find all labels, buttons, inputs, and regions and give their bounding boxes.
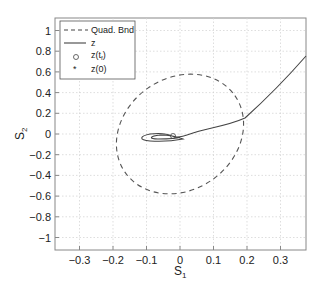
legend-z: z: [91, 38, 96, 48]
asterisk-marker-icon: *: [73, 64, 77, 74]
svg-text:0: 0: [45, 128, 51, 140]
chart: −0.3−0.2−0.100.10.20.310.80.60.40.20−0.2…: [0, 0, 321, 288]
svg-text:0.4: 0.4: [36, 87, 51, 99]
svg-text:−0.1: −0.1: [136, 254, 158, 266]
svg-text:0.1: 0.1: [206, 254, 221, 266]
legend: Quad. Bnd z z(tf) * z(0): [60, 21, 135, 79]
svg-text:0.2: 0.2: [36, 107, 51, 119]
svg-text:1: 1: [45, 25, 51, 37]
legend-z-tf: z(tf): [91, 50, 106, 61]
legend-z0: z(0): [91, 64, 107, 74]
svg-text:0.8: 0.8: [36, 45, 51, 57]
svg-text:−0.8: −0.8: [29, 211, 51, 223]
svg-text:−0.3: −0.3: [69, 254, 91, 266]
svg-text:0.3: 0.3: [273, 254, 288, 266]
x-axis-label: S1: [174, 264, 187, 280]
svg-text:−0.6: −0.6: [29, 190, 51, 202]
svg-text:−0.2: −0.2: [29, 149, 51, 161]
svg-text:0.6: 0.6: [36, 66, 51, 78]
svg-text:−0.4: −0.4: [29, 169, 51, 181]
svg-text:−1: −1: [38, 232, 51, 244]
svg-text:0.2: 0.2: [239, 254, 254, 266]
y-axis-label: S2: [13, 127, 29, 140]
legend-quad-bnd: Quad. Bnd: [91, 25, 134, 35]
svg-text:−0.2: −0.2: [102, 254, 124, 266]
